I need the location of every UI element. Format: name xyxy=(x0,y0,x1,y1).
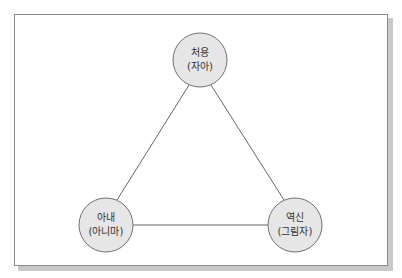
node-title: 아내 xyxy=(76,211,136,225)
node-subtitle: (그림자) xyxy=(265,225,325,239)
edge-top-bottom-left xyxy=(117,85,189,200)
node-bottom-left: 아내 (아니마) xyxy=(76,211,136,239)
edge-top-bottom-right xyxy=(211,85,284,200)
node-title: 역신 xyxy=(265,211,325,225)
diagram-canvas xyxy=(0,0,402,278)
node-subtitle: (아니마) xyxy=(76,225,136,239)
node-subtitle: (자아) xyxy=(170,60,230,74)
node-title: 처용 xyxy=(170,46,230,60)
node-bottom-right: 역신 (그림자) xyxy=(265,211,325,239)
node-top: 처용 (자아) xyxy=(170,46,230,74)
